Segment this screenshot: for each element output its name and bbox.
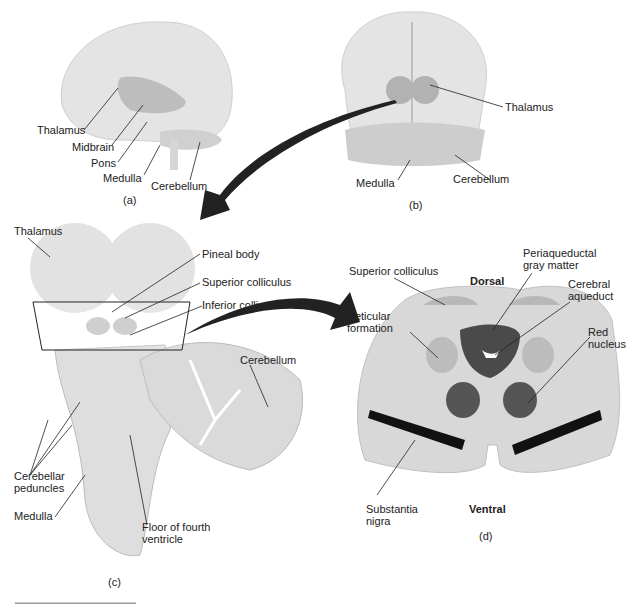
label-c-medulla: Medulla [14,510,53,523]
label-c-cerebellar-peduncles-line2: peduncles [14,482,64,495]
caption-a: (a) [123,194,136,206]
label-a-medulla: Medulla [103,172,142,185]
label-a-cerebellum: Cerebellum [151,180,207,193]
caption-d: (d) [479,530,492,542]
label-d-dorsal: Dorsal [470,275,504,288]
label-a-thalamus: Thalamus [37,124,85,137]
label-a-midbrain: Midbrain [72,141,114,154]
label-c-thalamus: Thalamus [14,225,62,238]
label-c-cerebellum: Cerebellum [240,354,296,367]
label-d-periaqueductal-line2: gray matter [523,259,579,272]
label-d-red-nucleus-line2: nucleus [588,338,626,351]
label-d-reticular-line2: formation [347,322,393,335]
label-d-cerebral-aqueduct-line2: aqueduct [568,290,613,303]
label-c-inferior-colliculus: Inferior colliculus [202,299,284,312]
brainstem-dorsal-view [30,223,303,556]
label-d-ventral: Ventral [469,503,506,516]
label-d-superior-colliculus: Superior colliculus [349,265,438,278]
label-c-pineal-body: Pineal body [202,248,260,261]
label-b-thalamus: Thalamus [505,101,553,114]
label-d-substantia-nigra-line2: nigra [366,515,390,528]
label-b-medulla: Medulla [356,177,395,190]
brain-front-view [342,12,487,166]
diagram-art [0,0,634,604]
caption-b: (b) [409,199,422,211]
caption-c: (c) [108,576,121,588]
midbrain-cross-section [358,286,620,472]
label-b-cerebellum: Cerebellum [453,173,509,186]
label-a-pons: Pons [91,157,116,170]
label-c-superior-colliculus: Superior colliculus [202,276,291,289]
label-c-floor-line2: ventricle [142,533,183,546]
